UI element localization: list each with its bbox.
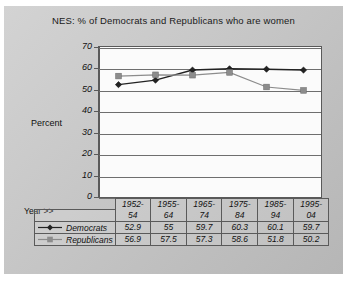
y-tick-label-30: 30 bbox=[64, 127, 92, 137]
y-tick-label-70: 70 bbox=[64, 41, 92, 51]
category-label-1985-94: 1985- bbox=[258, 199, 294, 210]
marker-democrats-1985-94 bbox=[263, 66, 269, 72]
cell-democrats-1985-94: 60.1 bbox=[258, 221, 294, 233]
y-tick-label-50: 50 bbox=[64, 84, 92, 94]
table-row: Democrats52.95559.760.360.159.7 bbox=[35, 221, 329, 233]
marker-democrats-1955-64 bbox=[152, 77, 158, 83]
marker-republicans-1965-74 bbox=[190, 72, 196, 78]
category-label-1995-04: 04 bbox=[293, 209, 329, 221]
cell-republicans-1965-74: 57.3 bbox=[186, 233, 222, 245]
marker-democrats-1952-54 bbox=[115, 82, 121, 88]
cell-republicans-1952-54: 56.9 bbox=[115, 233, 151, 245]
data-table: 1952-1955-1965-1975-1985-1995-5464748494… bbox=[34, 198, 329, 246]
cell-republicans-1955-64: 57.5 bbox=[151, 233, 187, 245]
marker-republicans-1955-64 bbox=[153, 72, 159, 78]
category-row-spacer bbox=[35, 199, 116, 210]
category-label-1975-84: 1975- bbox=[222, 199, 258, 210]
category-label-1952-54: 54 bbox=[115, 209, 151, 221]
chart-title: NES: % of Democrats and Republicans who … bbox=[4, 15, 343, 26]
y-tick-label-60: 60 bbox=[64, 62, 92, 72]
legend-label: Republicans bbox=[66, 234, 113, 244]
marker-democrats-1995-04 bbox=[300, 67, 306, 73]
category-label-1965-74: 74 bbox=[186, 209, 222, 221]
legend-diamond-icon bbox=[37, 223, 63, 232]
marker-republicans-1952-54 bbox=[116, 73, 122, 79]
category-label-1955-64: 64 bbox=[151, 209, 187, 221]
cell-democrats-1975-84: 60.3 bbox=[222, 221, 258, 233]
chart-container: NES: % of Democrats and Republicans who … bbox=[4, 6, 343, 274]
marker-republicans-1995-04 bbox=[301, 88, 307, 94]
cell-republicans-1975-84: 58.6 bbox=[222, 233, 258, 245]
cell-republicans-1995-04: 50.2 bbox=[293, 233, 329, 245]
cell-republicans-1985-94: 51.8 bbox=[258, 233, 294, 245]
y-tick-label-40: 40 bbox=[64, 105, 92, 115]
marker-republicans-1985-94 bbox=[264, 84, 270, 90]
category-label-1952-54: 1952- bbox=[115, 199, 151, 210]
table-row: Republicans56.957.557.358.651.850.2 bbox=[35, 233, 329, 245]
plot-area bbox=[98, 46, 322, 198]
cell-democrats-1995-04: 59.7 bbox=[293, 221, 329, 233]
category-label-1995-04: 1995- bbox=[293, 199, 329, 210]
category-row-top: 1952-1955-1965-1975-1985-1995- bbox=[35, 199, 329, 210]
legend-item-republicans[interactable]: Republicans bbox=[35, 233, 116, 245]
legend-label: Democrats bbox=[66, 222, 107, 232]
cell-democrats-1965-74: 59.7 bbox=[186, 221, 222, 233]
y-axis-label: Percent bbox=[31, 118, 62, 128]
series-line-democrats bbox=[119, 69, 304, 85]
category-label-1965-74: 1965- bbox=[186, 199, 222, 210]
y-tick-label-10: 10 bbox=[64, 170, 92, 180]
marker-republicans-1975-84 bbox=[227, 70, 233, 76]
series-layer bbox=[99, 47, 321, 197]
cell-democrats-1955-64: 55 bbox=[151, 221, 187, 233]
category-label-1975-84: 84 bbox=[222, 209, 258, 221]
category-row-bottom: 546474849404 bbox=[35, 209, 329, 221]
category-label-1985-94: 94 bbox=[258, 209, 294, 221]
cell-democrats-1952-54: 52.9 bbox=[115, 221, 151, 233]
legend-square-icon bbox=[37, 235, 63, 244]
category-row-spacer bbox=[35, 209, 116, 221]
legend-item-democrats[interactable]: Democrats bbox=[35, 221, 116, 233]
category-label-1955-64: 1955- bbox=[151, 199, 187, 210]
y-tick-label-20: 20 bbox=[64, 148, 92, 158]
